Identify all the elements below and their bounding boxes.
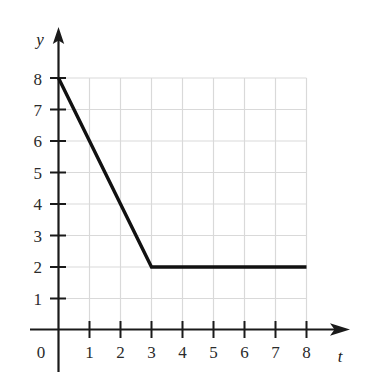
x-tick-label-6: 6 xyxy=(240,343,249,362)
plot-area: 1 2 3 4 5 6 7 8 0 1 2 3 4 5 6 7 8 y t xyxy=(0,0,371,383)
y-tick-label-5: 5 xyxy=(34,164,43,183)
y-tick-labels: 1 2 3 4 5 6 7 8 xyxy=(34,70,43,309)
x-tick-label-7: 7 xyxy=(271,343,280,362)
x-axis-label: t xyxy=(338,347,344,366)
y-axis-label: y xyxy=(34,30,44,49)
x-tick-label-5: 5 xyxy=(209,343,218,362)
x-tick-label-1: 1 xyxy=(85,343,94,362)
x-tick-label-8: 8 xyxy=(302,343,311,362)
x-tick-label-0: 0 xyxy=(37,343,46,362)
x-tick-label-4: 4 xyxy=(178,343,187,362)
y-tick-label-3: 3 xyxy=(34,227,43,246)
y-tick-label-8: 8 xyxy=(34,70,43,89)
x-tick-labels: 0 1 2 3 4 5 6 7 8 xyxy=(37,343,311,362)
grid-lines xyxy=(58,78,307,329)
y-tick-label-4: 4 xyxy=(34,195,43,214)
chart-figure: 1 2 3 4 5 6 7 8 0 1 2 3 4 5 6 7 8 y t xyxy=(0,0,371,383)
y-tick-label-2: 2 xyxy=(34,258,43,277)
y-tick-label-7: 7 xyxy=(34,101,43,120)
x-tick-label-3: 3 xyxy=(147,343,156,362)
y-tick-label-6: 6 xyxy=(34,132,43,151)
y-tick-label-1: 1 xyxy=(34,290,43,309)
x-tick-label-2: 2 xyxy=(116,343,125,362)
